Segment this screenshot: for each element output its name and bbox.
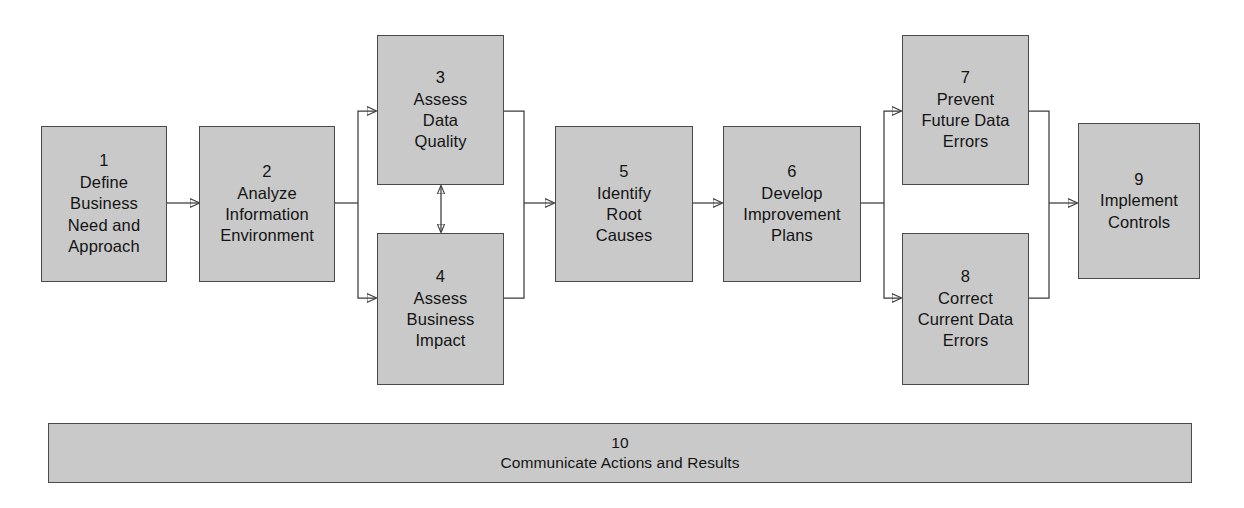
node-1-number: 1 (99, 150, 108, 171)
process-node-4[interactable]: 4 Assess Business Impact (377, 233, 504, 385)
node-2-number: 2 (262, 161, 271, 182)
edge-8-to-merge (1029, 203, 1049, 298)
node-10-label: Communicate Actions and Results (500, 453, 739, 473)
process-node-3[interactable]: 3 Assess Data Quality (377, 35, 504, 185)
process-node-5[interactable]: 5 Identify Root Causes (555, 126, 693, 282)
node-7-label: Prevent Future Data Errors (921, 89, 1009, 153)
node-6-number: 6 (787, 161, 796, 182)
node-5-number: 5 (619, 161, 628, 182)
edge-4-to-merge (504, 203, 524, 298)
edge-6-to-8 (884, 203, 901, 298)
process-node-7[interactable]: 7 Prevent Future Data Errors (902, 35, 1029, 185)
process-node-1[interactable]: 1 Define Business Need and Approach (41, 126, 167, 282)
process-node-2[interactable]: 2 Analyze Information Environment (199, 126, 335, 282)
process-node-8[interactable]: 8 Correct Current Data Errors (902, 233, 1029, 385)
flowchart-canvas: 1 Define Business Need and Approach 2 An… (0, 0, 1244, 508)
node-2-label: Analyze Information Environment (220, 183, 314, 247)
node-3-label: Assess Data Quality (414, 89, 468, 153)
node-9-number: 9 (1134, 169, 1143, 190)
node-6-label: Develop Improvement Plans (743, 183, 840, 247)
process-node-9[interactable]: 9 Implement Controls (1078, 123, 1200, 279)
edge-3-to-merge (504, 111, 524, 203)
node-4-number: 4 (436, 266, 445, 287)
edge-7-to-merge (1029, 111, 1049, 203)
node-8-label: Correct Current Data Errors (918, 288, 1014, 352)
node-8-number: 8 (961, 266, 970, 287)
process-node-10-banner[interactable]: 10 Communicate Actions and Results (48, 423, 1192, 483)
node-10-number: 10 (611, 433, 628, 453)
edge-2-to-3 (358, 111, 376, 203)
node-3-number: 3 (436, 67, 445, 88)
node-4-label: Assess Business Impact (407, 288, 475, 352)
node-7-number: 7 (961, 67, 970, 88)
process-node-6[interactable]: 6 Develop Improvement Plans (723, 126, 861, 282)
node-9-label: Implement Controls (1100, 190, 1178, 233)
edge-6-to-7 (884, 111, 901, 203)
node-1-label: Define Business Need and Approach (68, 172, 140, 258)
edge-2-to-4 (358, 203, 376, 298)
node-5-label: Identify Root Causes (596, 183, 653, 247)
